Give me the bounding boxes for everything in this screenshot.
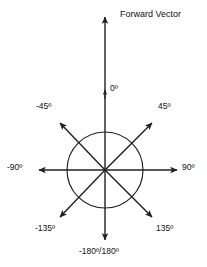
vector-lower-right-135deg — [105, 170, 152, 217]
angle-label-minus-135: -135º — [35, 224, 55, 233]
angle-label-minus-90: -90º — [7, 163, 22, 172]
vector-upper-right-45deg — [105, 123, 152, 170]
angle-label-90: 90º — [182, 163, 195, 172]
vector-lower-left-minus135deg — [60, 170, 105, 217]
vector-upper-left-minus45deg — [60, 123, 105, 170]
forward-vector-label: Forward Vector — [120, 10, 181, 19]
angle-label-minus-45: -45º — [36, 102, 51, 111]
angle-reference-diagram: Forward Vector 0º -45º 45º -90º 90º -135… — [0, 0, 207, 267]
diagram-canvas — [0, 0, 207, 267]
angle-label-180: -180º/180º — [79, 247, 119, 256]
angle-label-0: 0º — [110, 84, 118, 93]
angle-label-45: 45º — [158, 102, 171, 111]
angle-label-135: 135º — [156, 224, 173, 233]
